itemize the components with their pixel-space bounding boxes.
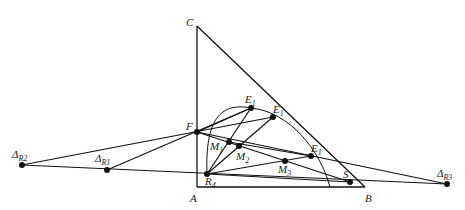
geometry-diagram: C A B F E1 E1 E1 M1 M2 M3 R4 S ΔR2 ΔR1 Δ… [0,0,465,210]
label-b: B [365,192,372,204]
label-r4: R4 [204,175,216,190]
construction-lines [22,108,447,184]
point-dr1 [104,167,110,173]
label-delta-r3: ΔR3 [436,167,452,182]
label-f: F [185,120,193,132]
label-m2: M2 [235,150,249,165]
label-m3: M3 [277,163,291,178]
label-a: A [189,192,197,204]
point-m1 [226,139,232,145]
label-c: C [186,16,194,28]
point-f [194,129,200,135]
label-m1: M1 [209,140,223,155]
point-m2 [236,143,242,149]
label-s: S [343,168,349,180]
label-delta-r1: ΔR1 [94,152,110,167]
label-delta-r2: ΔR2 [11,148,27,163]
